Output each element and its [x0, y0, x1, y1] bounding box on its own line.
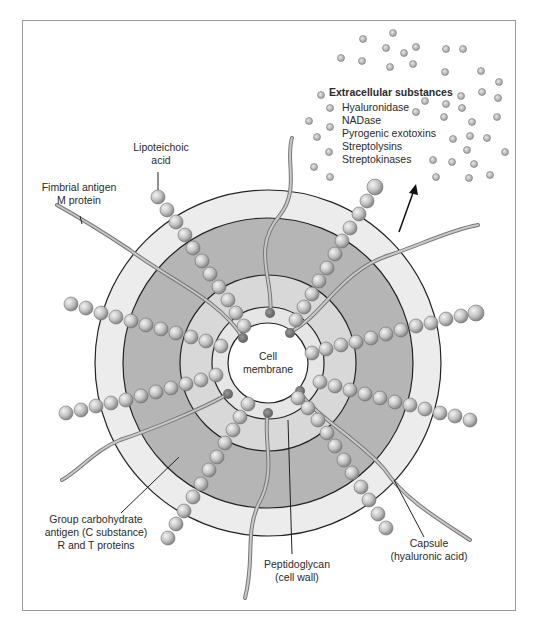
label-lipoteichoic-acid: Lipoteichoic acid [133, 141, 188, 166]
label-peptidoglycan: Peptidoglycan (cell wall) [264, 558, 330, 583]
svg-text:Lipoteichoic: Lipoteichoic [133, 141, 188, 153]
svg-text:Capsule: Capsule [410, 537, 449, 549]
svg-text:acid: acid [151, 154, 170, 166]
svg-text:Fimbrial antigen: Fimbrial antigen [42, 181, 117, 193]
svg-text:Peptidoglycan: Peptidoglycan [264, 558, 330, 570]
svg-text:Streptokinases: Streptokinases [342, 153, 411, 165]
svg-text:M protein: M protein [57, 194, 101, 206]
label-fimbrial-antigen: Fimbrial antigen M protein [42, 181, 117, 206]
secretion-arrow [399, 184, 418, 232]
label-capsule: Capsule (hyaluronic acid) [390, 537, 467, 562]
diagram-canvas: Lipoteichoic acid Fimbrial antigen M pro… [0, 0, 534, 622]
svg-text:R and T proteins: R and T proteins [57, 539, 134, 551]
svg-text:(cell wall): (cell wall) [275, 571, 319, 583]
svg-text:(hyaluronic acid): (hyaluronic acid) [390, 550, 467, 562]
svg-text:antigen (C substance): antigen (C substance) [45, 526, 148, 538]
label-group-carbohydrate: Group carbohydrate antigen (C substance)… [45, 513, 148, 551]
svg-text:Hyaluronidase: Hyaluronidase [342, 101, 409, 113]
cell-diagram: Lipoteichoic acid Fimbrial antigen M pro… [0, 0, 534, 622]
extracellular-substances-list: Extracellular substances Hyaluronidase N… [329, 86, 453, 165]
extracellular-title: Extracellular substances [329, 86, 453, 98]
svg-text:Streptolysins: Streptolysins [342, 140, 402, 152]
svg-text:Group carbohydrate: Group carbohydrate [49, 513, 143, 525]
svg-text:NADase: NADase [342, 114, 381, 126]
svg-text:Pyrogenic exotoxins: Pyrogenic exotoxins [342, 127, 436, 139]
svg-text:Cell: Cell [259, 350, 277, 362]
svg-text:membrane: membrane [243, 363, 293, 375]
